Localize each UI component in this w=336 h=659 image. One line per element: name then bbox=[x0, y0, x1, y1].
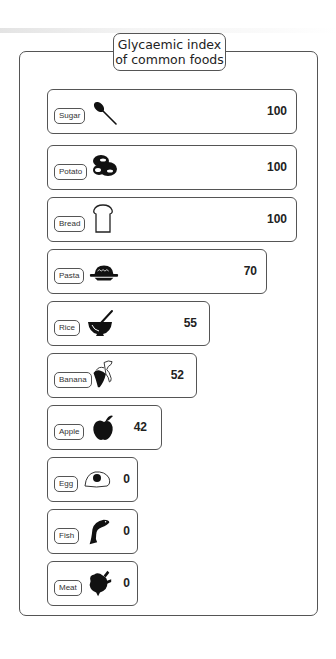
bar-value: 100 bbox=[267, 104, 287, 118]
bar-fish: Fish 0 bbox=[47, 509, 138, 554]
bar-label: Egg bbox=[54, 476, 78, 492]
fish-icon bbox=[84, 516, 114, 546]
potato-icon bbox=[90, 151, 120, 181]
rice-bowl-icon bbox=[86, 308, 116, 338]
bar-label: Fish bbox=[54, 528, 79, 544]
bar-meat: Meat 0 bbox=[47, 561, 138, 606]
banana-icon bbox=[90, 359, 120, 389]
apple-icon bbox=[90, 412, 120, 442]
bar-value: 100 bbox=[267, 212, 287, 226]
bar-banana: Banana 52 bbox=[47, 353, 197, 398]
chicken-icon bbox=[84, 568, 114, 598]
bar-value: 0 bbox=[123, 576, 130, 590]
bar-value: 55 bbox=[184, 316, 197, 330]
bar-label: Rice bbox=[54, 320, 80, 336]
spoon-icon bbox=[90, 98, 120, 128]
bar-label: Banana bbox=[54, 372, 92, 388]
bar-label: Apple bbox=[54, 424, 84, 440]
bar-apple: Apple 42 bbox=[47, 405, 162, 450]
bar-rice: Rice 55 bbox=[47, 301, 210, 346]
bar-label: Meat bbox=[54, 580, 82, 596]
bar-value: 0 bbox=[123, 524, 130, 538]
title-line-2: of common foods bbox=[115, 52, 224, 67]
bar-value: 70 bbox=[244, 264, 257, 278]
chart-title: Glycaemic index of common foods bbox=[113, 33, 226, 71]
bar-potato: Potato 100 bbox=[47, 145, 297, 190]
bar-value: 100 bbox=[267, 160, 287, 174]
bread-icon bbox=[88, 204, 118, 234]
bar-pasta: Pasta 70 bbox=[47, 249, 267, 294]
bar-label: Sugar bbox=[54, 108, 85, 124]
bar-sugar: Sugar 100 bbox=[47, 89, 297, 134]
bar-label: Potato bbox=[54, 164, 87, 180]
bar-value: 42 bbox=[134, 420, 147, 434]
bar-label: Pasta bbox=[54, 268, 84, 284]
title-line-1: Glycaemic index bbox=[118, 37, 221, 52]
bar-label: Bread bbox=[54, 216, 85, 232]
bar-value: 52 bbox=[171, 368, 184, 382]
bar-egg: Egg 0 bbox=[47, 457, 138, 502]
bar-value: 0 bbox=[123, 472, 130, 486]
egg-icon bbox=[83, 464, 113, 494]
bar-bread: Bread 100 bbox=[47, 197, 297, 242]
pasta-icon bbox=[89, 257, 119, 287]
